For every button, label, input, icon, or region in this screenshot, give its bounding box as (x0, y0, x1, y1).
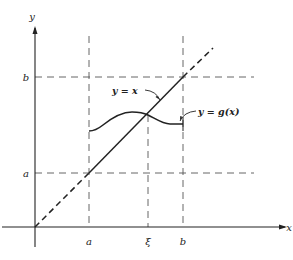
identity-line-dashed-lower (35, 173, 89, 227)
dashed-guide-lines (35, 36, 254, 227)
y-tick-label-a: a (23, 168, 29, 179)
g-pointer-arrow-icon (180, 111, 196, 121)
y-axis-arrow-icon (33, 26, 38, 34)
fixed-point-diagram: yxaξbbay = xy = g(x) x y y = x y = g(x) (0, 0, 293, 260)
x-tick-label-b: b (180, 236, 186, 247)
g-curve (89, 112, 183, 131)
y-tick-label-b: b (23, 72, 29, 83)
y-axis-label: y (28, 11, 35, 22)
identity-line-dashed-upper (183, 48, 213, 77)
labels: yxaξbbay = xy = g(x) (23, 11, 292, 247)
curves (35, 48, 213, 227)
identity-line-label: y = x (111, 85, 138, 96)
x-tick-label-xi: ξ (145, 236, 151, 247)
x-tick-label-a: a (86, 236, 92, 247)
x-axis-label: x (286, 222, 292, 233)
diagram-canvas: yxaξbbay = xy = g(x) (0, 0, 293, 260)
coordinate-axes (2, 26, 287, 247)
g-curve-label: y = g(x) (197, 106, 239, 117)
